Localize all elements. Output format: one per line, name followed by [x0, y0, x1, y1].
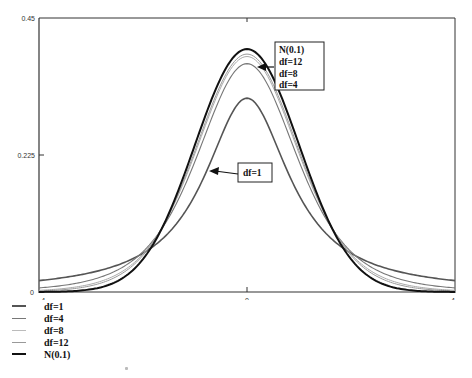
- legend-label: df=4: [44, 313, 64, 324]
- curve-df-1: [39, 98, 455, 280]
- annotation-line-df4: df=4: [279, 80, 298, 90]
- legend-item: df=4: [12, 312, 70, 324]
- arrow-head-icon: [209, 167, 219, 175]
- annotation-line-normal: N(0.1): [279, 45, 304, 56]
- legend-item: N(0.1): [12, 348, 70, 360]
- y-tick-label-top: 0.45: [21, 15, 35, 22]
- legend-label: df=8: [44, 325, 64, 336]
- annotation-line-df12: df=12: [279, 57, 303, 67]
- scan-artifact: [125, 367, 128, 370]
- y-tick-label-mid: 0.225: [17, 152, 35, 159]
- x-tick-label-right: 4: [451, 297, 455, 300]
- arrow-line: [215, 171, 238, 174]
- annotation-line-df8: df=8: [279, 69, 298, 79]
- legend-swatch-icon: [12, 318, 26, 319]
- density-chart: 0.45 0.225 0 -4 0 4 N(0.1) df=12 df=8 df…: [0, 0, 472, 300]
- legend-item: df=8: [12, 324, 70, 336]
- legend-swatch-icon: [12, 330, 26, 331]
- legend-label: df=1: [44, 301, 64, 312]
- legend-item: df=1: [12, 300, 70, 312]
- legend-swatch-icon: [12, 353, 26, 355]
- legend-label: N(0.1): [44, 349, 70, 360]
- legend: df=1df=4df=8df=12N(0.1): [12, 300, 70, 360]
- legend-label: df=12: [44, 337, 69, 348]
- legend-swatch-icon: [12, 305, 26, 307]
- x-tick-label-mid: 0: [245, 297, 249, 300]
- legend-item: df=12: [12, 336, 70, 348]
- annotation-df1: df=1: [209, 163, 272, 182]
- legend-swatch-icon: [12, 342, 26, 343]
- annotation-line-df1: df=1: [243, 168, 262, 178]
- y-tick-label-zero: 0: [30, 289, 34, 296]
